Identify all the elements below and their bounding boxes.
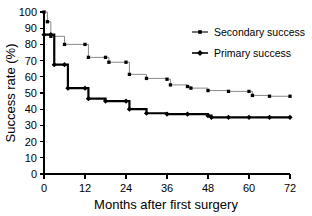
data-point-marker: [52, 62, 57, 67]
data-point-marker: [246, 115, 251, 120]
y-tick-label: 70: [25, 55, 37, 67]
y-tick-label: 10: [25, 152, 37, 164]
data-point-marker: [287, 115, 292, 120]
data-point-marker: [247, 90, 250, 93]
data-point-marker: [46, 20, 49, 23]
data-point-marker: [226, 115, 231, 120]
data-point-marker: [145, 77, 148, 80]
data-point-marker: [268, 95, 271, 98]
y-axis-title: Success rate (%): [3, 44, 18, 143]
x-tick-label: 72: [284, 182, 296, 194]
y-tick-label: 100: [19, 6, 37, 18]
data-point-marker: [267, 115, 272, 120]
data-point-marker: [127, 107, 132, 112]
data-point-marker: [198, 30, 202, 34]
x-axis-title: Months after first surgery: [94, 197, 238, 212]
data-point-marker: [107, 61, 110, 64]
data-point-marker: [189, 86, 192, 89]
data-point-marker: [186, 85, 189, 88]
data-point-marker: [169, 83, 172, 86]
x-tick-label: 0: [41, 182, 47, 194]
y-tick-label: 0: [31, 168, 37, 180]
x-tick-label: 60: [243, 182, 255, 194]
data-point-marker: [41, 32, 46, 37]
legend-label: Primary success: [214, 47, 291, 59]
data-point-marker: [251, 94, 254, 97]
data-point-marker: [63, 43, 66, 46]
data-point-marker: [206, 89, 209, 92]
y-tick-label: 40: [25, 103, 37, 115]
y-tick-label: 90: [25, 22, 37, 34]
x-tick-label: 36: [161, 182, 173, 194]
data-point-marker: [62, 62, 67, 67]
data-point-marker: [165, 78, 168, 81]
data-point-marker: [104, 56, 107, 59]
data-point-marker: [288, 95, 291, 98]
y-tick-label: 60: [25, 71, 37, 83]
legend-item-secondary-success: Secondary success: [192, 26, 305, 38]
series-primary-success: [41, 32, 292, 120]
data-point-marker: [86, 96, 91, 101]
data-point-marker: [83, 43, 86, 46]
legend-label: Secondary success: [214, 26, 305, 38]
data-point-marker: [123, 99, 128, 104]
y-tick-label: 30: [25, 119, 37, 131]
y-tick-label: 50: [25, 87, 37, 99]
y-axis-tick-labels: 0102030405060708090100: [19, 6, 37, 180]
data-point-marker: [65, 86, 70, 91]
data-point-marker: [124, 61, 127, 64]
x-axis-tick-labels: 0122436486072: [41, 182, 296, 194]
data-point-marker: [42, 10, 45, 13]
chart-figure: 0102030405060708090100 0122436486072 Mon…: [0, 0, 312, 216]
survival-curve-chart: 0102030405060708090100 0122436486072 Mon…: [0, 0, 312, 216]
data-point-marker: [82, 86, 87, 91]
data-point-marker: [144, 111, 149, 116]
data-point-marker: [128, 73, 131, 76]
y-tick-label: 80: [25, 38, 37, 50]
x-tick-label: 48: [202, 182, 214, 194]
x-axis-ticks: [44, 174, 290, 179]
data-point-marker: [87, 56, 90, 59]
data-point-marker: [197, 50, 203, 56]
chart-legend: Secondary successPrimary success: [192, 26, 305, 59]
data-point-marker: [227, 90, 230, 93]
x-tick-label: 12: [79, 182, 91, 194]
legend-item-primary-success: Primary success: [192, 47, 291, 59]
data-point-marker: [185, 111, 190, 116]
x-tick-label: 24: [120, 182, 132, 194]
y-tick-label: 20: [25, 136, 37, 148]
